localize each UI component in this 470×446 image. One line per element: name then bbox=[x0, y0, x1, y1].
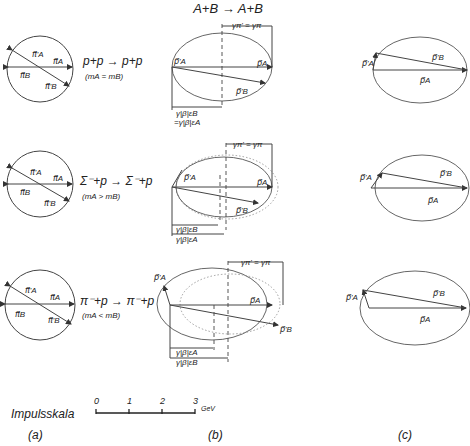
label-pi-a: π⃗A bbox=[50, 293, 60, 302]
label-pi-a: π⃗A bbox=[53, 174, 63, 183]
reaction-label: p+p → p+p bbox=[82, 54, 143, 68]
label-p-b-prime: p⃗'B bbox=[279, 325, 293, 334]
label-p-b-prime: p⃗'B bbox=[432, 289, 446, 298]
label-p-a-prime: p⃗'A bbox=[345, 293, 358, 302]
label-p-a: p⃗A bbox=[419, 76, 430, 85]
dimension-2: =γ|β|εA bbox=[174, 118, 200, 127]
row3-triangle-ellipse: p⃗'A p⃗'B p⃗A bbox=[345, 271, 470, 345]
scale-label: Impulsskala bbox=[11, 407, 75, 421]
panel-label-c: (c) bbox=[398, 428, 412, 442]
scale-tick-3: 3 bbox=[193, 396, 198, 406]
row-3: π⃗'A π⃗A π⃗B π⃗'B π⁻+p → π⁻+p (mA < mB) … bbox=[5, 258, 470, 367]
scale-tick-1: 1 bbox=[127, 396, 132, 406]
row3-cm-circle: π⃗'A π⃗A π⃗B π⃗'B bbox=[5, 270, 75, 340]
label-p-a: p⃗A bbox=[256, 178, 267, 187]
label-pi-b-prime: π⃗'B bbox=[44, 199, 56, 208]
label-p-a-prime: p⃗'A bbox=[153, 273, 166, 282]
dimension-2: γ|β|εA bbox=[176, 235, 198, 244]
dimension-2: γ|β|εB bbox=[176, 358, 198, 367]
elastic-scattering-diagram: A+B → A+B π⃗'A π⃗A π⃗B π⃗'B p+p → p+p (m… bbox=[0, 0, 470, 446]
label-pi-b: π⃗B bbox=[20, 71, 31, 80]
label-p-a: p⃗A bbox=[419, 315, 430, 324]
label-pi-b-prime: π⃗'B bbox=[45, 82, 57, 91]
label-p-a-prime: p⃗'A bbox=[361, 59, 374, 68]
dimension-1: γ|β|εA bbox=[176, 348, 198, 357]
label-pi-b: π⃗B bbox=[15, 310, 26, 319]
top-dimension: γπ' = γπ bbox=[232, 21, 262, 30]
label-pi-a-prime: π⃗'A bbox=[30, 168, 42, 177]
row1-cm-circle: π⃗'A π⃗A π⃗B π⃗'B bbox=[7, 36, 73, 102]
mass-relation: (mA > mB) bbox=[82, 192, 120, 201]
label-pi-a-prime: π⃗'A bbox=[32, 50, 44, 59]
label-p-a-prime: p⃗'A bbox=[359, 173, 372, 182]
mass-relation: (mA < mB) bbox=[82, 311, 120, 320]
label-p-b-prime: p⃗'B bbox=[235, 87, 249, 96]
label-pi-a-prime: π⃗'A bbox=[25, 286, 37, 295]
dimension-1: γ|β|εB bbox=[176, 225, 198, 234]
scale-tick-0: 0 bbox=[94, 396, 99, 406]
row2-cm-circle: π⃗'A π⃗A π⃗B π⃗'B bbox=[7, 151, 73, 217]
label-p-b-prime: p⃗'B bbox=[431, 53, 445, 62]
label-p-a: p⃗A bbox=[256, 59, 267, 68]
top-dimension: γπ' = γπ bbox=[241, 258, 271, 267]
label-p-a-prime: p⃗'A bbox=[173, 57, 186, 66]
reaction-label: π⁻+p → π⁻+p bbox=[80, 294, 154, 308]
top-dimension: γπ' = γπ bbox=[233, 140, 263, 149]
row3-lab-ellipse: γπ' = γπ p⃗'A p⃗A p⃗'B γ|β|εA γ|β|εB bbox=[153, 258, 293, 367]
scale-unit: GeV bbox=[201, 405, 216, 412]
panel-label-b: (b) bbox=[208, 428, 223, 442]
momentum-scale: Impulsskala 0 1 2 3 GeV bbox=[11, 396, 216, 421]
label-pi-b-prime: π⃗'B bbox=[48, 316, 60, 325]
label-p-a-prime: p⃗'A bbox=[183, 173, 196, 182]
row1-lab-ellipse: γπ' = γπ p⃗'A p⃗A p⃗'B γ|β|εB =γ|β|εA bbox=[172, 21, 272, 127]
row-2: π⃗'A π⃗A π⃗B π⃗'B Σ⁻+p → Σ⁻+p (mA > mB) … bbox=[7, 140, 469, 244]
row-1: π⃗'A π⃗A π⃗B π⃗'B p+p → p+p (mA = mB) γπ… bbox=[7, 21, 467, 127]
label-p-a: p⃗A bbox=[249, 296, 260, 305]
reaction-label: Σ⁻+p → Σ⁻+p bbox=[79, 174, 153, 188]
row1-triangle-ellipse: p⃗'A p⃗'B p⃗A bbox=[361, 37, 467, 103]
label-pi-b: π⃗B bbox=[20, 188, 31, 197]
mass-relation: (mA = mB) bbox=[85, 72, 123, 81]
label-p-a: p⃗A bbox=[427, 196, 438, 205]
scale-tick-2: 2 bbox=[159, 396, 165, 406]
label-p-b-prime: p⃗'B bbox=[235, 206, 249, 215]
label-pi-a: π⃗A bbox=[53, 57, 63, 66]
label-p-b-prime: p⃗'B bbox=[439, 169, 453, 178]
panel-label-a: (a) bbox=[28, 428, 43, 442]
row2-triangle-ellipse: p⃗'A p⃗'B p⃗A bbox=[359, 155, 469, 221]
header-title: A+B → A+B bbox=[192, 1, 263, 16]
dimension-1: γ|β|εB bbox=[176, 109, 198, 118]
row2-lab-ellipse: γπ' = γπ p⃗'A p⃗A p⃗'B γ|β|εB γ|β|εA bbox=[172, 140, 278, 244]
